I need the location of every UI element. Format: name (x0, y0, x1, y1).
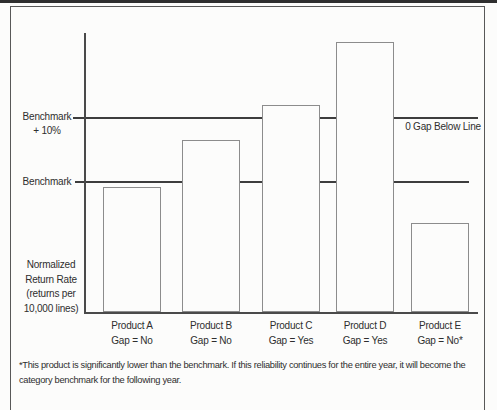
bar-product-b (182, 140, 240, 312)
bar-product-e (411, 223, 469, 312)
bar-product-c (262, 105, 320, 312)
figure-border-box (10, 6, 485, 410)
bar-label-product-d: Product D Gap = Yes (325, 319, 405, 348)
x-axis-line (84, 312, 478, 314)
bar-label-product-e: Product E Gap = No* (400, 319, 480, 348)
bar-label-product-b: Product B Gap = No (171, 319, 251, 348)
bar-product-a (103, 187, 161, 312)
bar-label-product-a: Product A Gap = No (92, 319, 172, 348)
benchmark-label: Benchmark (20, 175, 74, 189)
bar-product-d (336, 42, 394, 312)
y-axis-label: Normalized Return Rate (returns per 10,0… (18, 258, 84, 316)
page-top-rule (0, 0, 497, 3)
figure-canvas: Benchmark + 10% Benchmark 0 Gap Below Li… (0, 0, 497, 410)
y-axis-line (84, 33, 86, 313)
footnote: *This product is significantly lower tha… (19, 358, 487, 388)
zero-gap-annotation: 0 Gap Below Line (403, 121, 483, 132)
bar-label-product-c: Product C Gap = Yes (251, 319, 331, 348)
benchmark-plus-10-label: Benchmark + 10% (20, 110, 74, 138)
